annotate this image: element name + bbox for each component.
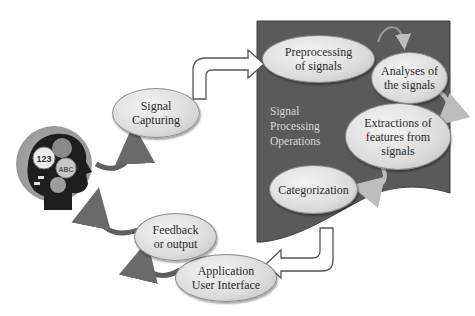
signal-processing-operations-label: Signal Processing Operations (270, 104, 320, 149)
arrow-feedback-to-head (95, 202, 138, 233)
node-analyses: Analyses of the signals (371, 52, 448, 104)
node-extractions: Extractions of features from signals (345, 103, 451, 170)
arrow-head-to-capture (96, 139, 134, 168)
node-preprocessing: Preprocessing of signals (262, 35, 375, 83)
node-application-ui: Application User Interface (175, 254, 277, 302)
node-categorization: Categorization (269, 165, 358, 214)
head-symbol-abc: ABC (58, 166, 73, 173)
signal-processing-diagram: 123 ABC Signal Processing Operations Sig… (0, 0, 475, 316)
block-arrow-capture-to-preprocess (193, 50, 264, 99)
human-head-icon: 123 ABC (16, 126, 92, 210)
node-feedback: Feedback or output (134, 213, 217, 261)
head-symbol-123: 123 (36, 154, 51, 164)
node-signal-capturing: Signal Capturing (112, 88, 200, 138)
